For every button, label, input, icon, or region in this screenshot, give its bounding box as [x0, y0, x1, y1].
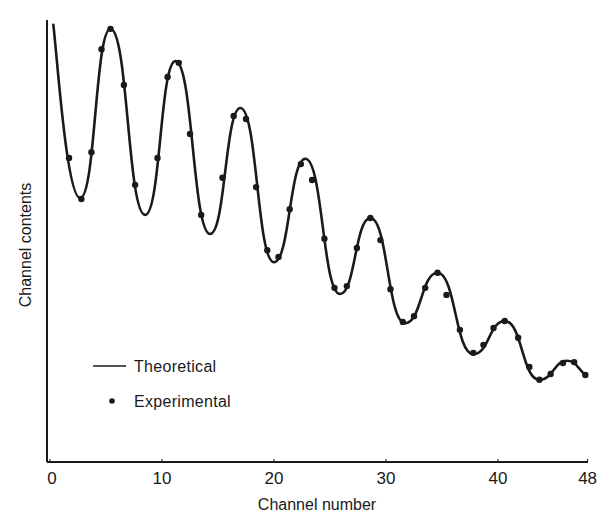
x-tick-label: 48: [578, 469, 597, 488]
chart-background: [0, 0, 614, 525]
experimental-point: [264, 247, 270, 253]
experimental-point: [377, 237, 383, 243]
experimental-point: [387, 286, 393, 292]
experimental-point: [434, 270, 440, 276]
experimental-point: [480, 342, 486, 348]
experimental-point: [560, 360, 566, 366]
experimental-point: [502, 318, 508, 324]
experimental-point: [457, 327, 463, 333]
experimental-point: [309, 177, 315, 183]
y-axis-label: Channel contents: [17, 183, 34, 308]
x-tick-label: 10: [153, 469, 172, 488]
experimental-point: [490, 325, 496, 331]
legend-dot-icon: [109, 398, 115, 404]
x-axis-label: Channel number: [258, 496, 377, 513]
experimental-point: [107, 26, 113, 32]
legend-label-theoretical: Theoretical: [134, 358, 216, 375]
experimental-point: [230, 113, 236, 119]
experimental-point: [98, 46, 104, 52]
experimental-point: [121, 82, 127, 88]
x-tick-label: 0: [47, 469, 56, 488]
experimental-point: [154, 155, 160, 161]
experimental-point: [400, 319, 406, 325]
experimental-point: [411, 313, 417, 319]
experimental-point: [219, 175, 225, 181]
experimental-point: [88, 149, 94, 155]
experimental-point: [286, 206, 292, 212]
experimental-point: [515, 335, 521, 341]
experimental-point: [582, 372, 588, 378]
experimental-point: [354, 245, 360, 251]
experimental-point: [164, 74, 170, 80]
experimental-point: [66, 155, 72, 161]
experimental-point: [547, 371, 553, 377]
experimental-point: [243, 116, 249, 122]
experimental-point: [298, 161, 304, 167]
experimental-point: [198, 212, 204, 218]
experimental-point: [526, 364, 532, 370]
experimental-point: [344, 283, 350, 289]
experimental-point: [321, 236, 327, 242]
x-tick-label: 30: [377, 469, 396, 488]
experimental-point: [331, 285, 337, 291]
experimental-point: [443, 292, 449, 298]
experimental-point: [187, 131, 193, 137]
x-tick-label: 40: [489, 469, 508, 488]
experimental-point: [536, 377, 542, 383]
experimental-point: [367, 215, 373, 221]
experimental-point: [422, 285, 428, 291]
legend-label-experimental: Experimental: [134, 393, 231, 410]
experimental-point: [253, 184, 259, 190]
experimental-point: [78, 196, 84, 202]
experimental-point: [470, 350, 476, 356]
experimental-point: [176, 60, 182, 66]
experimental-point: [275, 254, 281, 260]
experimental-point: [132, 182, 138, 188]
x-tick-label: 20: [265, 469, 284, 488]
experimental-point: [571, 359, 577, 365]
chart: 01020304048 Channel number Channel conte…: [0, 0, 614, 525]
